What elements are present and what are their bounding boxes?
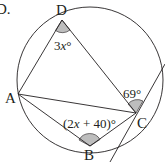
angle-label-b: (2x + 40)° [63, 116, 116, 131]
point-label-c: C [137, 115, 147, 131]
point-label-d: D [56, 2, 67, 18]
circle [17, 7, 163, 153]
question-label: D. [0, 1, 11, 17]
angle-label-tangent-c: 69° [123, 86, 141, 101]
angle-d-unit: ° [66, 38, 71, 53]
geometry-diagram: D. D A B C 3x° 69° (2x + 40)° [0, 0, 165, 162]
angle-label-d: 3x° [54, 38, 71, 53]
segment-da [18, 20, 62, 94]
tangent-line-c [110, 64, 165, 162]
angle-b-open: (2 [63, 116, 74, 131]
point-label-a: A [5, 90, 16, 106]
point-label-b: B [84, 147, 94, 162]
angle-b-rest: + 40)° [80, 116, 116, 131]
segment-ac [18, 94, 136, 113]
angle-d-shading [56, 20, 71, 33]
